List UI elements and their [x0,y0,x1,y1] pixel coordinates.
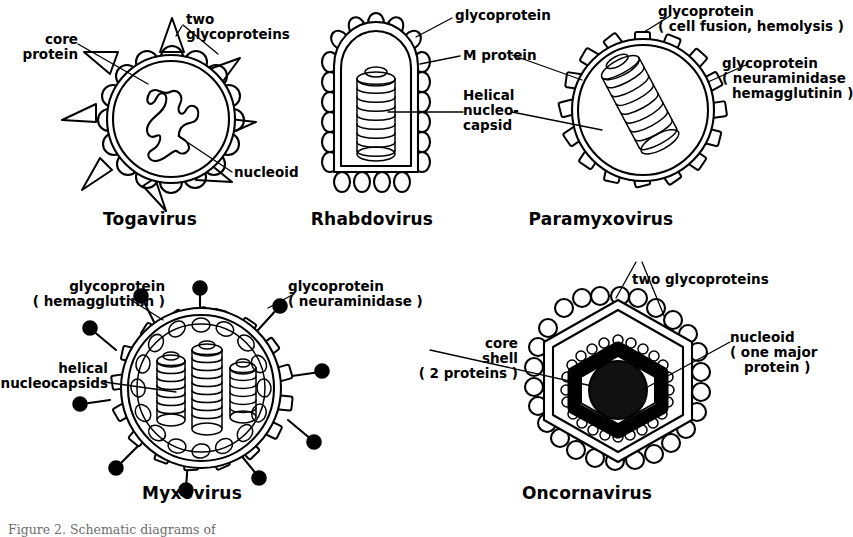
togavirus-nucleoid-label: nucleoid [234,165,299,180]
myxovirus-glycoprotein-hemagglutinin-label: glycoprotein ( hemagglutinin ) [10,279,165,309]
paramyxovirus-envelope [572,39,714,181]
panel-rhabdovirus: glycoprotein M protein Helical nucleo- c… [300,0,540,240]
rhabdovirus-glycoprotein-label: glycoprotein [455,8,551,23]
figure-caption: Figure 2. Schematic diagrams of [8,522,216,537]
togavirus-core-protein-label: core protein [6,32,78,62]
myxovirus-glycoprotein-neuraminidase-label: glycoprotein ( neuraminidase ) [288,279,423,309]
rhabdovirus-helical-nucleocapsid-label: Helical nucleo- capsid [463,88,519,133]
rhabdovirus-envelope [334,22,418,172]
paramyxovirus-glycoprotein-neuraminidase-label: glycoprotein ( neuraminidase hemagglutin… [722,56,853,101]
oncornavirus-title: Oncornavirus [384,483,790,503]
oncornavirus-nucleoid-label: nucleoid ( one major protein ) [730,330,817,375]
myxovirus-title: Myxovirus [0,483,402,503]
togavirus-envelope [107,55,235,183]
panel-togavirus: core protein two glycoproteins nucleoid … [0,0,300,240]
rhabdovirus-title: Rhabdovirus [252,209,492,229]
myxovirus-helical-nucleocapsids-label: helical nucleocapsids [0,361,108,391]
panel-myxovirus: glycoprotein ( hemagglutinin ) glycoprot… [0,268,420,536]
oncornavirus-core-shell-label: core shell ( 2 proteins ) [412,336,518,381]
oncornavirus-two-glycoproteins-label: two glycoproteins [632,272,769,287]
rhabdovirus-m-protein-label: M protein [463,48,537,63]
panel-paramyxovirus: glycoprotein ( cell fusion, hemolysis ) … [540,0,826,240]
panel-oncornavirus: two glycoproteins core shell ( 2 protein… [420,268,826,536]
oncornavirus-illustration [420,268,826,498]
paramyxovirus-glycoprotein-fusion-label: glycoprotein ( cell fusion, hemolysis ) [658,4,844,34]
oncornavirus-nucleoid [589,361,647,419]
paramyxovirus-title: Paramyxovirus [458,209,744,229]
togavirus-two-glycoproteins-label: two glycoproteins [186,12,290,42]
